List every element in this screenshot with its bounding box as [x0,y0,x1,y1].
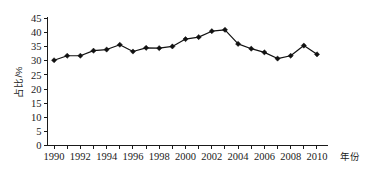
data-point-marker [130,49,135,54]
y-tick-label: 5 [36,126,41,137]
x-tick-label: 2000 [175,151,196,162]
x-tick-label: 2008 [280,151,301,162]
data-point-marker [91,48,96,53]
y-tick-label: 25 [31,70,42,81]
x-axis-title: 年份 [340,151,360,162]
data-point-marker [183,37,188,42]
y-axis-title: 占比/% [13,66,24,98]
x-axis: 1990199219941996199820002002200420062008… [44,146,328,162]
y-tick-label: 45 [31,13,42,24]
x-tick-label: 1996 [122,151,143,162]
x-tick-label: 1990 [44,151,65,162]
chart-container: 051015202530354045 199019921994199619982… [0,0,369,173]
y-tick-label: 10 [31,112,42,123]
axis-titles: 占比/%年份 [13,66,360,162]
data-point-marker [117,42,122,47]
x-tick-label: 2002 [201,151,222,162]
line-chart: 051015202530354045 199019921994199619982… [0,0,369,173]
data-point-marker [196,35,201,40]
data-point-marker [249,46,254,51]
y-tick-label: 35 [31,41,42,52]
y-tick-label: 30 [31,55,42,66]
data-point-marker [104,47,109,52]
x-tick-label: 2006 [254,151,275,162]
data-point-marker [157,46,162,51]
data-point-marker [262,50,267,55]
y-tick-label: 0 [36,140,41,151]
y-tick-label: 15 [31,98,42,109]
data-series [51,27,319,63]
x-tick-label: 2010 [306,151,327,162]
x-tick-label: 1998 [149,151,170,162]
y-tick-label: 40 [31,27,42,38]
x-tick-label: 2004 [228,151,250,162]
data-point-marker [143,45,148,50]
data-point-marker [51,58,56,63]
data-point-marker [78,53,83,58]
data-point-marker [170,44,175,49]
x-tick-label: 1994 [96,151,118,162]
data-point-marker [275,56,280,61]
data-point-marker [209,29,214,34]
y-tick-label: 20 [31,84,42,95]
y-axis: 051015202530354045 [31,13,48,151]
x-tick-label: 1992 [70,151,91,162]
data-point-marker [65,53,70,58]
